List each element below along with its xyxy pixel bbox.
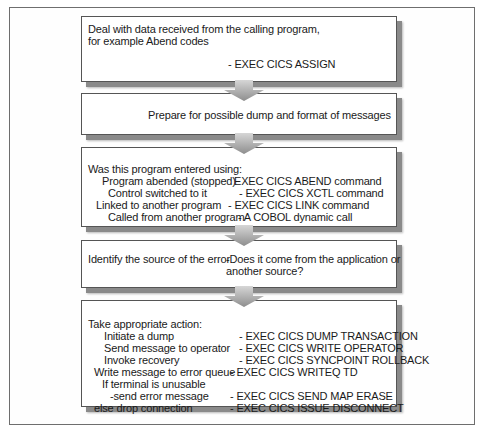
step-entry-method: Was this program entered using: Program … — [81, 147, 397, 227]
down-arrow-icon — [222, 225, 266, 247]
action-command: - EXEC CICS WRITEQ TD — [230, 366, 357, 378]
step-text-line: Deal with data received from the calling… — [88, 23, 320, 35]
down-arrow-icon — [222, 133, 266, 155]
step-question-line: -Does it come from the application or — [226, 253, 400, 265]
step-take-action: Take appropriate action: Initiate a dump… — [81, 300, 397, 407]
action-label: Write message to error queue — [94, 366, 235, 378]
entry-condition: Called from another program — [108, 211, 245, 223]
step-text: Prepare for possible dump and format of … — [148, 109, 391, 121]
step-label: Identify the source of the error — [88, 253, 230, 265]
entry-command: EXEC CICS ABEND command — [234, 175, 382, 187]
step-command: - EXEC CICS ASSIGN — [228, 58, 335, 70]
action-label: -send error message — [110, 390, 209, 402]
entry-command: - EXEC CICS XCTL command — [239, 187, 384, 199]
action-label: Invoke recovery — [104, 354, 179, 366]
entry-condition: Control switched to it — [108, 187, 207, 199]
action-command: - EXEC CICS DUMP TRANSACTION — [239, 330, 418, 342]
entry-condition: Linked to another program — [96, 199, 221, 211]
action-command: - EXEC CICS SEND MAP ERASE — [230, 390, 393, 402]
entry-condition: Program abended (stopped) — [102, 175, 236, 187]
step-heading: Take appropriate action: — [88, 318, 202, 330]
entry-command: - EXEC CICS LINK command — [228, 199, 369, 211]
action-command: - EXEC CICS SYNCPOINT ROLLBACK — [239, 354, 429, 366]
entry-command: - A COBOL dynamic call — [238, 211, 352, 223]
step-identify-source: Identify the source of the error -Does i… — [81, 240, 397, 288]
action-label: If terminal is unusable — [102, 378, 206, 390]
step-text-line: for example Abend codes — [88, 35, 209, 47]
step-deal-with-data: Deal with data received from the calling… — [81, 16, 397, 82]
down-arrow-icon — [222, 286, 266, 308]
step-heading: Was this program entered using: — [88, 163, 242, 175]
action-label: Initiate a dump — [104, 330, 174, 342]
action-label: else drop connection — [94, 402, 193, 414]
down-arrow-icon — [222, 80, 266, 102]
action-command: - EXEC CICS ISSUE DISCONNECT — [230, 402, 404, 414]
action-command: - EXEC CICS WRITE OPERATOR — [239, 342, 403, 354]
step-question-line: another source? — [226, 265, 303, 277]
action-label: Send message to operator — [104, 342, 230, 354]
